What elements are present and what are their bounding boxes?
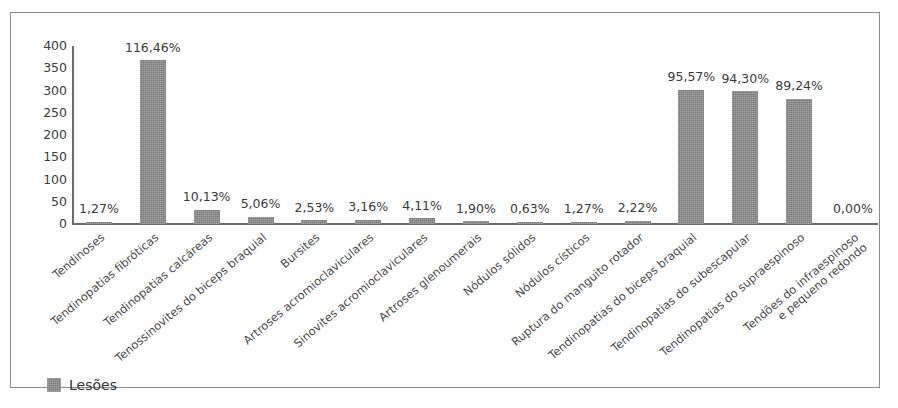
- bar-value-label: 95,57%: [668, 71, 716, 84]
- bar[interactable]: [194, 210, 220, 224]
- y-tick-label: 400: [17, 40, 67, 53]
- y-axis-tick-labels: 400350300250200150100500: [14, 46, 67, 224]
- bar-value-label: 4,11%: [402, 200, 442, 213]
- bar-slot: 1,90%: [449, 46, 503, 224]
- bar[interactable]: [86, 222, 112, 225]
- bar-slot: 3,16%: [341, 46, 395, 224]
- bar-slot: 1,27%: [72, 46, 126, 224]
- y-tick-label: 150: [17, 151, 67, 164]
- bar-slot: 2,53%: [287, 46, 341, 224]
- bar-value-label: 116,46%: [125, 42, 181, 55]
- bar-value-label: 0,63%: [510, 203, 550, 216]
- bar-slot: 4,11%: [395, 46, 449, 224]
- bar[interactable]: [463, 221, 489, 224]
- y-tick-label: 300: [17, 84, 67, 97]
- y-tick-label: 200: [17, 129, 67, 142]
- y-tick-label: 50: [17, 196, 67, 209]
- bar[interactable]: [732, 91, 758, 224]
- bar[interactable]: [678, 90, 704, 224]
- bar-value-label: 89,24%: [775, 80, 823, 93]
- bar[interactable]: [517, 222, 543, 225]
- chart-figure: 400350300250200150100500 1,27%116,46%10,…: [0, 0, 898, 408]
- x-axis-category-labels: TendinosesTendinopatias fibróticasTendin…: [72, 227, 880, 357]
- bar-slot: 0,63%: [503, 46, 557, 224]
- bar-value-label: 1,27%: [79, 203, 119, 216]
- bar-value-label: 2,22%: [618, 202, 658, 215]
- bar[interactable]: [786, 99, 812, 224]
- figure-border: 400350300250200150100500 1,27%116,46%10,…: [10, 12, 880, 388]
- bar[interactable]: [301, 220, 327, 224]
- legend-swatch-icon: [47, 378, 61, 392]
- y-tick-label: 250: [17, 107, 67, 120]
- bar[interactable]: [248, 217, 274, 224]
- bar-slot: 95,57%: [664, 46, 718, 224]
- bar[interactable]: [571, 222, 597, 225]
- bar-value-label: 3,16%: [348, 201, 388, 214]
- bar[interactable]: [355, 220, 381, 224]
- bar-slot: 10,13%: [180, 46, 234, 224]
- bar-slot: 89,24%: [772, 46, 826, 224]
- bar[interactable]: [625, 221, 651, 224]
- chart-legend: Lesões: [47, 378, 117, 392]
- bar-value-label: 5,06%: [241, 198, 281, 211]
- legend-label: Lesões: [69, 378, 117, 392]
- bar-slot: 2,22%: [611, 46, 665, 224]
- bar-value-label: 1,27%: [564, 203, 604, 216]
- bar-slot: 0,00%: [826, 46, 880, 224]
- bar-value-label: 0,00%: [833, 203, 873, 216]
- x-label-slot: Tendões do infraespinoso e pequeno redon…: [826, 227, 880, 357]
- y-tick-label: 0: [17, 218, 67, 231]
- bar-slot: 116,46%: [126, 46, 180, 224]
- bar[interactable]: [140, 60, 166, 224]
- bar-value-label: 1,90%: [456, 203, 496, 216]
- bar-value-label: 2,53%: [295, 202, 335, 215]
- bar-value-label: 10,13%: [183, 191, 231, 204]
- bar-slot: 1,27%: [557, 46, 611, 224]
- bar[interactable]: [409, 218, 435, 224]
- y-tick-label: 100: [17, 173, 67, 186]
- bar-slot: 94,30%: [718, 46, 772, 224]
- bar-value-label: 94,30%: [721, 73, 769, 86]
- bar-series: 1,27%116,46%10,13%5,06%2,53%3,16%4,11%1,…: [72, 46, 880, 224]
- y-tick-label: 350: [17, 62, 67, 75]
- bar-slot: 5,06%: [234, 46, 288, 224]
